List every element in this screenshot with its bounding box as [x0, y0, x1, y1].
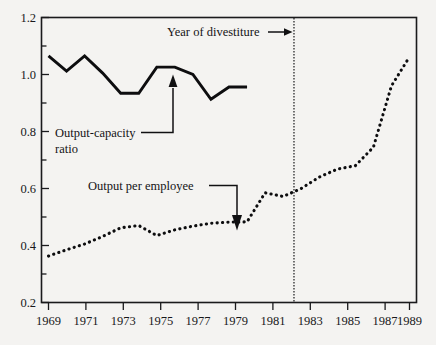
- y-tick-label-1: 0.4: [20, 239, 36, 253]
- x-tick-label-9: 1987: [373, 314, 398, 328]
- plot-frame: [42, 18, 417, 303]
- y-tick-label-5: 1.2: [20, 11, 36, 25]
- x-tick-label-10: 1989: [397, 314, 422, 328]
- line-chart: 0.2 0.4 0.6 0.8 1.0 1.2 1969 1971 1973 1…: [0, 0, 436, 345]
- chart-figure: 0.2 0.4 0.6 0.8 1.0 1.2 1969 1971 1973 1…: [0, 0, 436, 345]
- x-tick-label-4: 1977: [186, 314, 211, 328]
- x-tick-label-5: 1979: [223, 314, 248, 328]
- arrow-up-icon: [169, 75, 178, 88]
- annotation-output-per-employee: Output per employee: [88, 179, 242, 231]
- x-tick-label-1: 1971: [73, 314, 98, 328]
- annotation-output-capacity-ratio-label-line1: Output-capacity: [55, 126, 136, 140]
- annotation-leader-line: [209, 186, 237, 217]
- y-tick-label-0: 0.2: [20, 296, 36, 310]
- y-tick-label-3: 0.8: [20, 125, 36, 139]
- arrow-right-icon: [284, 28, 293, 36]
- x-tick-label-3: 1975: [148, 314, 173, 328]
- x-tick-label-2: 1973: [111, 314, 136, 328]
- annotation-output-per-employee-label: Output per employee: [88, 179, 194, 193]
- y-tick-label-2: 0.6: [20, 182, 36, 196]
- x-tick-label-7: 1983: [298, 314, 323, 328]
- y-tick-label-4: 1.0: [20, 68, 36, 82]
- annotation-year-of-divestiture-label: Year of divestiture: [167, 25, 260, 39]
- x-tick-label-8: 1985: [335, 314, 360, 328]
- series-output-capacity-ratio: [49, 56, 248, 99]
- annotation-year-of-divestiture: Year of divestiture: [167, 25, 293, 39]
- x-tick-label-0: 1969: [36, 314, 61, 328]
- x-axis-ticks: [49, 303, 410, 311]
- annotation-output-capacity-ratio-label-line2: ratio: [55, 142, 78, 156]
- annotation-leader-line: [141, 88, 173, 133]
- x-tick-label-6: 1981: [260, 314, 285, 328]
